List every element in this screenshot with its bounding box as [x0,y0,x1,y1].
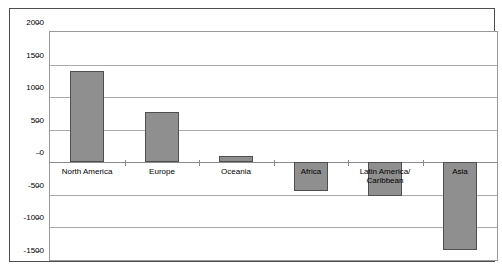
gridline [50,97,497,98]
gridline [50,227,497,228]
y-axis-label: 2000 [10,18,44,28]
y-axis-label: 1000 [10,83,44,93]
category-axis-tick [423,160,424,166]
category-axis-tick [199,160,200,166]
y-axis-label: 500 [10,116,44,126]
category-axis-tick [125,160,126,166]
category-label-north-america: North America [47,167,127,176]
category-label-asia: Asia [420,167,500,176]
y-axis-label: 0 [10,148,44,158]
chart-frame: North AmericaEuropeOceaniaAfricaLatin Am… [9,8,495,262]
category-label-europe: Europe [122,167,202,176]
category-label-latin-america-caribbean: Latin America/ Caribbean [345,167,425,185]
bar-europe [145,112,179,162]
y-axis-label: 1500 [10,51,44,61]
category-label-africa: Africa [271,167,351,176]
y-axis-label: -500 [10,181,44,191]
gridline [50,65,497,66]
bar-north-america [70,71,104,162]
category-axis-tick [274,160,275,166]
gridline [50,195,497,196]
category-axis-tick [348,160,349,166]
y-axis-label: -1000 [10,213,44,223]
category-label-oceania: Oceania [196,167,276,176]
y-axis-label: -1500 [10,246,44,256]
gridline [50,130,497,131]
plot-area: North AmericaEuropeOceaniaAfricaLatin Am… [49,31,498,261]
bar-oceania [219,156,253,162]
